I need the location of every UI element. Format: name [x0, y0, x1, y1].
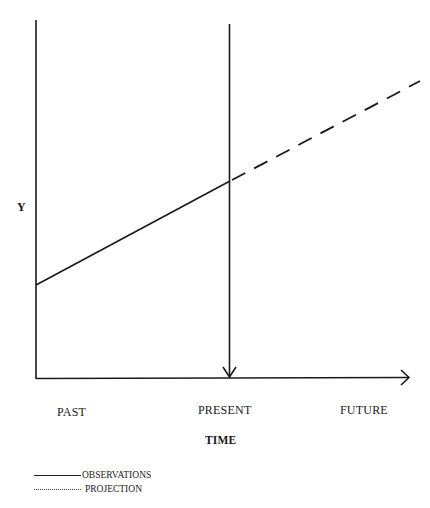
solid-line-swatch-icon: [34, 475, 81, 476]
observations-line: [36, 181, 230, 285]
x-axis: [36, 378, 409, 379]
projection-line: [232, 81, 420, 180]
legend-projection-label: PROJECTION: [85, 484, 142, 494]
x-axis-label: TIME: [205, 434, 236, 446]
legend-observations-label: OBSERVATIONS: [82, 470, 151, 480]
tick-past: PAST: [57, 405, 86, 420]
y-axis-label: Y: [17, 200, 26, 215]
legend-projection: PROJECTION: [34, 484, 142, 494]
legend-observations: OBSERVATIONS: [34, 470, 151, 480]
projection-diagram: [0, 0, 430, 508]
tick-future: FUTURE: [340, 403, 388, 418]
dotted-line-swatch-icon: [34, 489, 81, 490]
tick-present: PRESENT: [198, 403, 251, 418]
